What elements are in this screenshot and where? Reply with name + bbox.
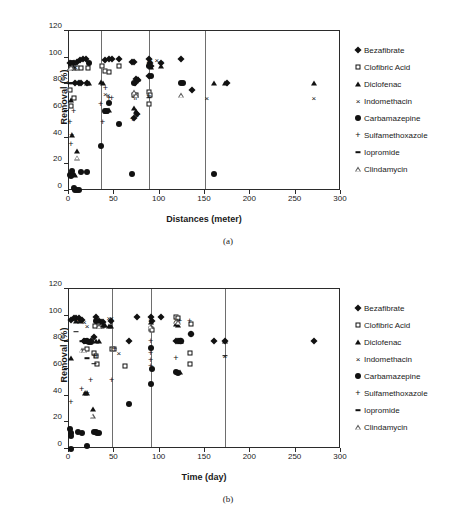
- legend-label: Bezafibrate: [364, 300, 404, 317]
- x-axis-tick-mark: [113, 448, 114, 452]
- marker-triangle-open-icon: [148, 324, 154, 329]
- figure-panel-b: Removal (%)Time (day)(b)0204060801001200…: [0, 258, 456, 516]
- marker-triangle-open-icon: [69, 65, 75, 70]
- legend-item[interactable]: Indomethacin: [352, 351, 456, 368]
- legend-label: Indomethacin: [364, 93, 412, 110]
- legend-item[interactable]: Clofibric Acid: [352, 317, 456, 334]
- x-axis-tick-label: 0: [53, 452, 83, 461]
- plot-area: [68, 30, 340, 190]
- chart-legend: BezafibrateClofibric AcidDiclofenacIndom…: [352, 300, 456, 436]
- x-axis-title: Distances (meter): [68, 214, 340, 224]
- marker-diamond-icon: [354, 46, 361, 53]
- chart-a: Removal (%)Distances (meter)(a)020406080…: [0, 0, 456, 232]
- legend-item[interactable]: Diclofenac: [352, 334, 456, 351]
- x-axis-tick-label: 100: [144, 452, 174, 461]
- marker-triangle-open-icon: [90, 413, 96, 418]
- y-axis-tick-label: 120: [34, 22, 62, 30]
- legend-item[interactable]: Sulfamethoxazole: [352, 385, 456, 402]
- x-axis-tick-label: 300: [325, 194, 355, 203]
- series-clindamycin: [69, 289, 339, 447]
- marker-triangle-icon: [355, 340, 361, 345]
- legend-item[interactable]: Iopromide: [352, 144, 456, 161]
- x-axis-tick-label: 50: [98, 194, 128, 203]
- x-axis-tick-label: 150: [189, 452, 219, 461]
- panel-subcaption: (a): [0, 236, 456, 246]
- x-axis-tick-mark: [204, 448, 205, 452]
- x-axis-tick-label: 200: [234, 452, 264, 461]
- marker-circle-icon: [355, 115, 361, 121]
- legend-label: Iopromide: [364, 402, 400, 419]
- marker-triangle-open-icon: [81, 348, 87, 353]
- legend-label: Clofibric Acid: [364, 59, 410, 76]
- x-axis-tick-label: 200: [234, 194, 264, 203]
- marker-triangle-open-icon: [96, 324, 102, 329]
- x-axis-tick-label: 300: [325, 452, 355, 461]
- legend-item[interactable]: Carbamazepine: [352, 110, 456, 127]
- legend-item[interactable]: Indomethacin: [352, 93, 456, 110]
- marker-plus-icon: [355, 131, 360, 140]
- x-axis-tick-mark: [340, 448, 341, 452]
- legend-label: Indomethacin: [364, 351, 412, 368]
- x-axis-tick-mark: [204, 190, 205, 194]
- x-axis-tick-label: 250: [280, 194, 310, 203]
- x-axis-tick-mark: [159, 190, 160, 194]
- marker-dash-icon: [356, 409, 361, 411]
- legend-label: Diclofenac: [364, 334, 401, 351]
- marker-plus-icon: [355, 389, 360, 398]
- panel-subcaption: (b): [0, 494, 456, 504]
- legend-label: Diclofenac: [364, 76, 401, 93]
- marker-diamond-icon: [354, 304, 361, 311]
- marker-triangle-open-icon: [355, 425, 361, 430]
- marker-dash-icon: [356, 151, 361, 153]
- legend-item[interactable]: Clindamycin: [352, 161, 456, 178]
- legend-item[interactable]: Clofibric Acid: [352, 59, 456, 76]
- marker-triangle-icon: [355, 82, 361, 87]
- chart-b: Removal (%)Time (day)(b)0204060801001200…: [0, 258, 456, 490]
- x-axis-tick-label: 100: [144, 194, 174, 203]
- plot-area: [68, 288, 340, 448]
- x-axis-title: Time (day): [68, 472, 340, 482]
- legend-item[interactable]: Diclofenac: [352, 76, 456, 93]
- legend-item[interactable]: Sulfamethoxazole: [352, 127, 456, 144]
- marker-triangle-open-icon: [355, 167, 361, 172]
- legend-item[interactable]: Bezafibrate: [352, 42, 456, 59]
- legend-label: Iopromide: [364, 144, 400, 161]
- marker-square-icon: [356, 323, 361, 328]
- figure-panel-a: Removal (%)Distances (meter)(a)020406080…: [0, 0, 456, 258]
- x-axis-tick-label: 150: [189, 194, 219, 203]
- x-axis-tick-mark: [295, 448, 296, 452]
- legend-label: Clofibric Acid: [364, 317, 410, 334]
- chart-legend: BezafibrateClofibric AcidDiclofenacIndom…: [352, 42, 456, 178]
- marker-square-icon: [356, 65, 361, 70]
- legend-item[interactable]: Iopromide: [352, 402, 456, 419]
- legend-item[interactable]: Clindamycin: [352, 419, 456, 436]
- marker-triangle-open-icon: [74, 155, 80, 160]
- legend-label: Bezafibrate: [364, 42, 404, 59]
- x-axis-tick-mark: [68, 190, 69, 194]
- x-axis-tick-label: 250: [280, 452, 310, 461]
- marker-triangle-open-icon: [178, 93, 184, 98]
- legend-item[interactable]: Carbamazepine: [352, 368, 456, 385]
- legend-label: Sulfamethoxazole: [364, 385, 428, 402]
- marker-cross-icon: [356, 97, 361, 106]
- x-axis-tick-mark: [295, 190, 296, 194]
- legend-item[interactable]: Bezafibrate: [352, 300, 456, 317]
- x-axis-tick-mark: [249, 190, 250, 194]
- marker-triangle-open-icon: [133, 93, 139, 98]
- marker-circle-icon: [355, 373, 361, 379]
- x-axis-tick-mark: [340, 190, 341, 194]
- x-axis-tick-mark: [113, 190, 114, 194]
- x-axis-tick-mark: [159, 448, 160, 452]
- x-axis-tick-label: 50: [98, 452, 128, 461]
- series-clindamycin: [69, 31, 339, 189]
- x-axis-tick-label: 0: [53, 194, 83, 203]
- marker-cross-icon: [356, 355, 361, 364]
- legend-label: Clindamycin: [364, 419, 408, 436]
- x-axis-tick-mark: [249, 448, 250, 452]
- legend-label: Sulfamethoxazole: [364, 127, 428, 144]
- legend-label: Clindamycin: [364, 161, 408, 178]
- legend-label: Carbamazepine: [364, 368, 420, 385]
- y-axis-tick-label: 120: [34, 280, 62, 288]
- legend-label: Carbamazepine: [364, 110, 420, 127]
- marker-triangle-open-icon: [175, 320, 181, 325]
